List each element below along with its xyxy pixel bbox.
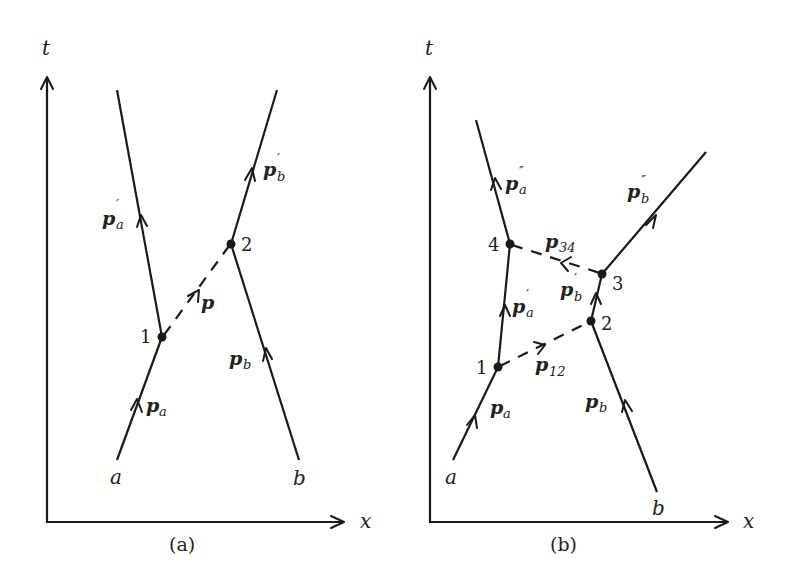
panel-a: t x 1 2 a b p a p ′ a (41, 36, 371, 555)
label-pa-double-prime: p ″ a (505, 164, 527, 197)
svg-text:p: p (560, 278, 574, 300)
svg-text:p: p (102, 207, 116, 229)
svg-text:p: p (512, 295, 526, 317)
svg-text:′: ′ (574, 271, 577, 286)
panel-b-caption: (b) (550, 533, 577, 555)
svg-text:b: b (641, 191, 649, 206)
vertex-3-label: 3 (612, 273, 623, 294)
vertex-2-label: 2 (601, 313, 612, 334)
svg-text:p: p (545, 230, 559, 252)
svg-text:p: p (263, 158, 277, 180)
svg-text:a: a (116, 217, 124, 232)
panel-b: t x 1 2 3 4 a b p (424, 36, 754, 555)
vertex-2 (587, 317, 596, 326)
vertex-3 (598, 270, 607, 279)
svg-text:p: p (585, 390, 599, 412)
x-axis-label: x (360, 509, 371, 533)
vertex-1-label: 1 (476, 357, 487, 378)
label-pb-prime: p ′ b (560, 271, 582, 304)
spacetime-diagrams: t x 1 2 a b p a p ′ a (0, 0, 794, 581)
label-pa: p a (490, 396, 511, 421)
x-axis-label: x (743, 509, 754, 533)
svg-text:″: ″ (641, 173, 646, 188)
arrow-pb-icon (622, 400, 632, 412)
svg-text:″: ″ (519, 164, 524, 179)
svg-text:a: a (526, 305, 534, 320)
label-pa: p a (146, 394, 167, 419)
endpoint-b-label: b (652, 496, 665, 520)
panel-a-caption: (a) (169, 533, 195, 555)
vertex-1 (494, 363, 503, 372)
label-pb-double-prime: p ″ b (627, 173, 649, 206)
svg-text:p: p (535, 353, 549, 375)
svg-text:′: ′ (526, 287, 529, 302)
svg-text:a: a (519, 182, 527, 197)
label-pb: p b (229, 347, 251, 372)
label-p: p (201, 291, 215, 313)
svg-text:p: p (146, 394, 160, 416)
svg-text:p: p (490, 396, 504, 418)
label-pa-prime: p ′ a (512, 287, 534, 320)
arrow-pa1-icon (500, 305, 510, 316)
worldline-b-out (602, 152, 706, 274)
label-pa-prime: p ′ a (102, 197, 124, 232)
label-p12: p 12 (535, 353, 566, 379)
endpoint-a-label: a (110, 465, 122, 489)
endpoint-b-label: b (293, 466, 306, 490)
svg-text:34: 34 (559, 240, 576, 255)
svg-text:a: a (159, 404, 167, 419)
vertex-4 (506, 240, 515, 249)
worldline-a-out (117, 90, 162, 337)
t-axis-label: t (425, 36, 434, 60)
vertex-4-label: 4 (488, 234, 499, 255)
svg-text:b: b (599, 400, 607, 415)
vertex-1-label: 1 (140, 326, 151, 347)
endpoint-a-label: a (445, 465, 457, 489)
svg-text:b: b (574, 289, 582, 304)
svg-text:b: b (243, 357, 251, 372)
svg-text:p: p (229, 347, 243, 369)
vertex-2-label: 2 (241, 234, 252, 255)
svg-text:′: ′ (277, 151, 280, 166)
label-p34: p 34 (545, 230, 576, 255)
label-pb-prime: p ′ b (263, 151, 285, 184)
svg-text:p: p (627, 180, 641, 202)
svg-text:b: b (277, 169, 285, 184)
svg-text:′: ′ (116, 197, 119, 212)
t-axis-label: t (42, 36, 51, 60)
label-pb: p b (585, 390, 607, 415)
vertex-1 (158, 333, 167, 342)
svg-text:p: p (201, 291, 215, 313)
svg-text:p: p (505, 172, 519, 194)
vertex-2 (227, 240, 236, 249)
svg-text:a: a (503, 406, 511, 421)
svg-text:12: 12 (549, 364, 566, 379)
